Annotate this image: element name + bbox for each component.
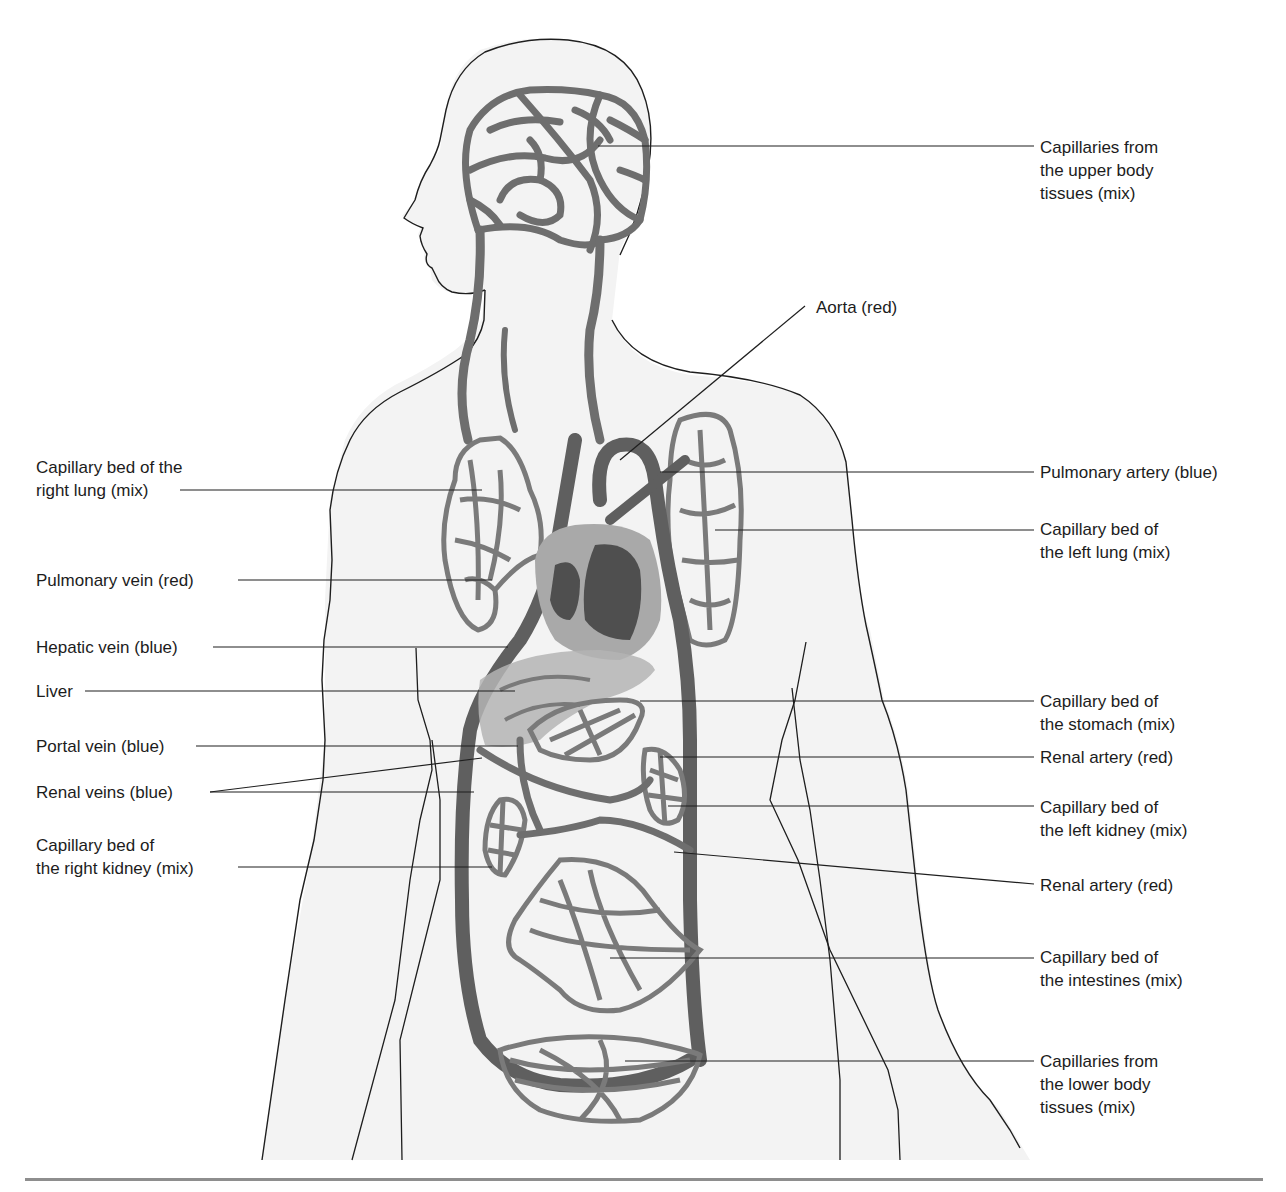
label-pulmonary-artery: Pulmonary artery (blue) — [1040, 461, 1218, 484]
footer-divider — [25, 1178, 1263, 1181]
label-renal-artery-lower: Renal artery (red) — [1040, 874, 1173, 897]
label-pulmonary-vein: Pulmonary vein (red) — [36, 569, 194, 592]
label-capillary-bed-intestines: Capillary bed of the intestines (mix) — [1040, 946, 1183, 992]
label-capillary-bed-stomach: Capillary bed of the stomach (mix) — [1040, 690, 1175, 736]
label-liver: Liver — [36, 680, 73, 703]
label-capillary-bed-left-kidney: Capillary bed of the left kidney (mix) — [1040, 796, 1187, 842]
label-capillaries-upper-body: Capillaries from the upper body tissues … — [1040, 136, 1158, 205]
label-capillary-bed-left-lung: Capillary bed of the left lung (mix) — [1040, 518, 1170, 564]
label-portal-vein: Portal vein (blue) — [36, 735, 165, 758]
circulatory-diagram: Capillary bed of the right lung (mix) Pu… — [0, 0, 1286, 1192]
label-capillaries-lower-body: Capillaries from the lower body tissues … — [1040, 1050, 1158, 1119]
label-hepatic-vein: Hepatic vein (blue) — [36, 636, 178, 659]
label-capillary-bed-right-lung: Capillary bed of the right lung (mix) — [36, 456, 182, 502]
label-capillary-bed-right-kidney: Capillary bed of the right kidney (mix) — [36, 834, 194, 880]
label-aorta: Aorta (red) — [816, 296, 897, 319]
label-renal-artery-upper: Renal artery (red) — [1040, 746, 1173, 769]
label-renal-veins: Renal veins (blue) — [36, 781, 173, 804]
